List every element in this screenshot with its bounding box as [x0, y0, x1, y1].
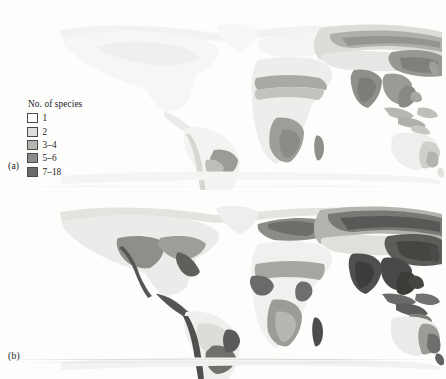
figure-container: No. of species 1 2 3–4 5–6: [0, 0, 446, 379]
panel-tag-a: (a): [8, 160, 19, 171]
legend-row: 3–4: [27, 138, 82, 151]
legend-label: 7–18: [43, 167, 62, 177]
legend-row: 7–18: [27, 165, 82, 178]
legend-label: 3–4: [43, 140, 57, 150]
scan-artifact: [0, 362, 446, 363]
legend-swatch-5: [27, 167, 38, 177]
scan-artifact: [0, 186, 446, 187]
map-b-landmasses: [60, 206, 444, 379]
legend-swatch-1: [27, 113, 38, 123]
legend-label: 2: [43, 127, 48, 137]
conservation-cost-world-map: [0, 190, 446, 379]
panel-a: No. of species 1 2 3–4 5–6: [0, 0, 446, 190]
legend-label: 1: [43, 113, 48, 123]
legend-a-title: No. of species: [27, 98, 82, 110]
legend-a-rows: 1 2 3–4 5–6 7–18: [27, 112, 82, 179]
legend-row: 5–6: [27, 152, 82, 165]
legend-row: 2: [27, 125, 82, 138]
legend-swatch-3: [27, 140, 38, 150]
legend-row: 1: [27, 112, 82, 125]
panel-b: Cost (US$ km−2 yr−1) 114–497 498–1,170 1…: [0, 190, 446, 379]
legend-a: No. of species 1 2 3–4 5–6: [27, 98, 82, 178]
legend-swatch-4: [27, 153, 38, 163]
legend-label: 5–6: [43, 153, 57, 163]
panel-tag-b: (b): [8, 350, 20, 361]
map-a-landmasses: [60, 24, 444, 190]
scan-artifact: [0, 359, 446, 360]
legend-swatch-2: [27, 127, 38, 137]
map-b-svg: [0, 190, 446, 379]
